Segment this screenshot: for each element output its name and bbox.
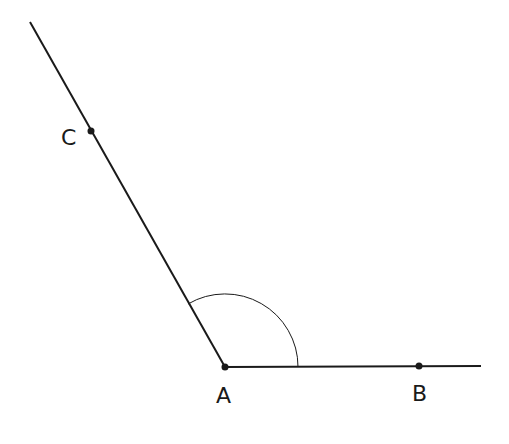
point-c — [88, 128, 95, 135]
label-a: A — [216, 383, 231, 408]
label-c: C — [61, 125, 76, 150]
angle-diagram: A B C — [0, 0, 509, 444]
point-b — [416, 363, 423, 370]
ray-ab — [225, 366, 481, 367]
label-b: B — [412, 381, 427, 406]
ray-ac — [30, 22, 225, 367]
point-a — [222, 364, 229, 371]
